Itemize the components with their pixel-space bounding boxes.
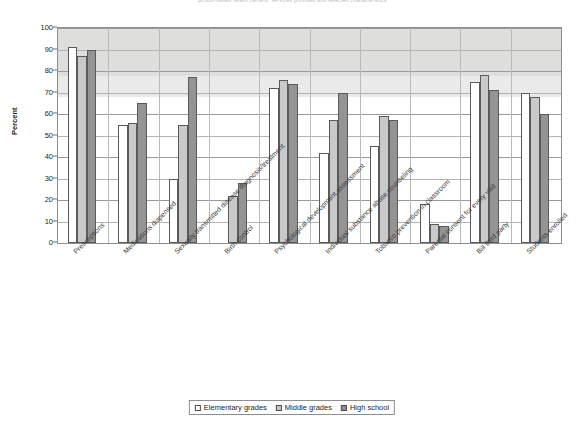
swatch-middle-icon	[276, 405, 282, 411]
group-separator	[108, 28, 109, 243]
bar-0-4	[269, 88, 279, 243]
bar-1-2	[178, 125, 188, 243]
y-axis-label: Percent	[10, 107, 19, 135]
group-separator	[511, 28, 512, 243]
bar-1-5	[329, 120, 339, 243]
legend-item-middle: Middle grades	[276, 403, 332, 412]
y-tick-label: 100	[40, 23, 53, 32]
bar-1-4	[279, 80, 289, 243]
bar-2-2	[188, 77, 198, 243]
y-tick-label: 20	[45, 195, 53, 204]
bar-1-8	[480, 75, 490, 243]
swatch-elementary-icon	[195, 405, 201, 411]
legend-label-high: High school	[350, 403, 389, 412]
y-tick-label: 40	[45, 152, 53, 161]
group-separator	[460, 28, 461, 243]
y-tick-label: 60	[45, 109, 53, 118]
swatch-high-icon	[341, 405, 347, 411]
bar-2-5	[338, 93, 348, 244]
bar-1-1	[128, 123, 138, 243]
chart-title: School-based health centers: services pr…	[0, 0, 584, 4]
legend-label-middle: Middle grades	[285, 403, 332, 412]
group-separator	[410, 28, 411, 243]
bar-2-4	[288, 84, 298, 243]
bar-2-1	[137, 103, 147, 243]
legend-item-elementary: Elementary grades	[195, 403, 267, 412]
bar-0-1	[118, 125, 128, 243]
chart-root: School-based health centers: services pr…	[0, 0, 584, 432]
legend-label-elementary: Elementary grades	[204, 403, 267, 412]
y-tick-label: 30	[45, 173, 53, 182]
bar-1-0	[77, 56, 87, 243]
plot-area	[57, 27, 562, 244]
group-separator	[209, 28, 210, 243]
bar-2-8	[489, 90, 499, 243]
group-separator	[360, 28, 361, 243]
legend-item-high: High school	[341, 403, 389, 412]
group-separator	[259, 28, 260, 243]
bar-0-0	[68, 47, 78, 243]
y-tick-label: 80	[45, 66, 53, 75]
bar-2-0	[87, 50, 97, 244]
chart-legend: Elementary grades Middle grades High sch…	[189, 400, 395, 415]
y-tick-label: 70	[45, 87, 53, 96]
bar-0-8	[470, 82, 480, 243]
y-tick-label: 50	[45, 130, 53, 139]
y-axis: Percent 0102030405060708090100	[0, 0, 57, 432]
y-tick-label: 10	[45, 216, 53, 225]
bar-2-9	[540, 114, 550, 243]
bar-1-9	[530, 97, 540, 243]
bar-1-6	[379, 116, 389, 243]
y-tick-label: 90	[45, 44, 53, 53]
bar-0-9	[521, 93, 531, 244]
